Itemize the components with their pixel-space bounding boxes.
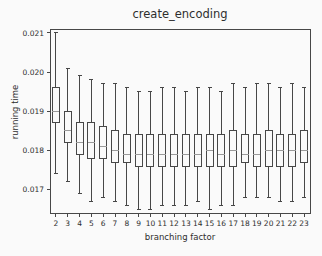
box-iqr	[301, 131, 308, 162]
box-iqr	[123, 135, 130, 162]
box-iqr	[194, 135, 201, 166]
box-iqr	[218, 135, 225, 166]
box-iqr	[64, 111, 71, 142]
box-iqr	[159, 135, 166, 166]
y-tick-label: 0.021	[23, 29, 45, 38]
x-tick-label: 14	[193, 219, 203, 228]
box-iqr	[52, 88, 59, 123]
box-iqr	[76, 123, 83, 154]
x-tick-label: 18	[240, 219, 250, 228]
box-iqr	[182, 135, 189, 166]
y-tick-label: 0.018	[23, 146, 45, 155]
x-axis-label: branching factor	[50, 232, 310, 242]
boxplot-figure: 0.0170.0180.0190.0200.021234567891011121…	[0, 0, 322, 256]
y-tick-label: 0.020	[23, 68, 45, 77]
box-iqr	[230, 131, 237, 166]
box-iqr	[265, 131, 272, 166]
x-tick-label: 6	[101, 219, 106, 228]
x-tick-label: 5	[89, 219, 94, 228]
x-tick-label: 3	[65, 219, 70, 228]
box-iqr	[88, 123, 95, 158]
box-iqr	[171, 135, 178, 166]
x-tick-label: 10	[146, 219, 156, 228]
box-iqr	[112, 131, 119, 162]
box-iqr	[100, 127, 107, 158]
box-iqr	[147, 135, 154, 166]
x-tick-label: 9	[136, 219, 141, 228]
x-tick-label: 11	[157, 219, 167, 228]
x-tick-label: 12	[169, 219, 179, 228]
x-tick-label: 2	[54, 219, 59, 228]
y-tick-label: 0.019	[23, 107, 45, 116]
plot-frame	[50, 29, 310, 213]
y-tick-label: 0.017	[23, 185, 45, 194]
y-axis-label: running time	[10, 85, 20, 140]
x-tick-label: 22	[287, 219, 297, 228]
x-tick-label: 23	[299, 219, 309, 228]
box-iqr	[135, 135, 142, 166]
x-tick-label: 15	[205, 219, 215, 228]
x-tick-label: 16	[217, 219, 227, 228]
x-tick-label: 21	[276, 219, 286, 228]
x-tick-label: 4	[77, 219, 82, 228]
x-tick-label: 7	[113, 219, 118, 228]
x-tick-label: 20	[264, 219, 274, 228]
box-iqr	[253, 135, 260, 166]
box-iqr	[242, 135, 249, 162]
x-tick-label: 8	[124, 219, 129, 228]
x-tick-label: 13	[181, 219, 191, 228]
x-tick-label: 19	[252, 219, 262, 228]
boxplot-chart: 0.0170.0180.0190.0200.021234567891011121…	[0, 0, 322, 256]
x-tick-label: 17	[228, 219, 238, 228]
chart-title: create_encoding	[50, 7, 310, 21]
